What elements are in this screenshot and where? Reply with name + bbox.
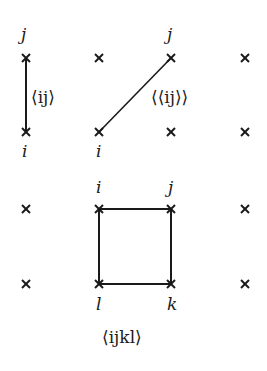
plaquette-site-i-label: i — [96, 177, 101, 197]
lattice-site-icon — [241, 280, 249, 288]
nnn-bond-label: ⟨⟨ij⟩⟩ — [151, 87, 188, 107]
plaquette-site-l-label: l — [96, 294, 101, 314]
plaquette-site-j-label: j — [164, 177, 174, 197]
lattice-site-icon — [241, 54, 249, 62]
lattice-site-icon — [241, 205, 249, 213]
lattice-site-icon — [167, 54, 175, 62]
lattice-site-icon — [95, 54, 103, 62]
plaquette-site-k-label: k — [167, 294, 177, 314]
plaquette-label: ⟨ijkl⟩ — [102, 327, 142, 347]
nnn-site-i-label: i — [96, 141, 101, 161]
lattice-diagram: j i ⟨ij⟩ j i ⟨⟨ij⟩⟩ i j k l ⟨ijkl⟩ — [0, 0, 267, 371]
lattice-site-icon — [22, 205, 30, 213]
plaquette-square — [99, 209, 171, 284]
nnn-site-j-label: j — [163, 24, 173, 44]
nn-bond-label: ⟨ij⟩ — [31, 87, 55, 107]
lattice-site-icon — [167, 128, 175, 136]
lattice-site-icon — [95, 128, 103, 136]
nn-site-j-label: j — [17, 24, 27, 44]
nn-site-i-label: i — [22, 141, 27, 161]
lattice-site-icon — [22, 280, 30, 288]
lattice-site-icon — [241, 128, 249, 136]
